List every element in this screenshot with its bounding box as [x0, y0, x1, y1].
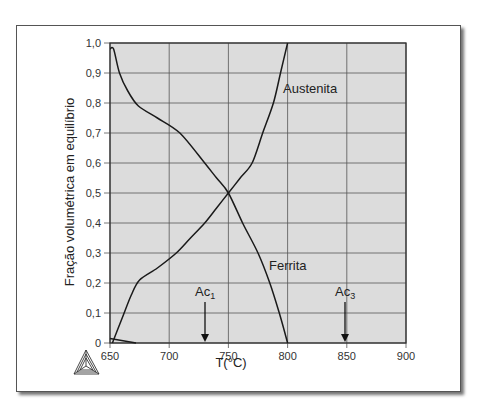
- x-axis-label: T(°C): [215, 355, 246, 370]
- x-tick-label: 700: [160, 350, 178, 362]
- y-axis-label: Fração volumétrica em equilíbrio: [62, 98, 77, 287]
- x-tick-label: 800: [278, 350, 296, 362]
- x-tick-label: 850: [338, 350, 356, 362]
- y-tick-label: 0,6: [86, 157, 101, 169]
- y-tick-label: 0,4: [86, 217, 101, 229]
- y-tick-label: 1,0: [86, 37, 101, 49]
- austenita-label: Austenita: [283, 81, 338, 96]
- y-tick-label: 0,7: [86, 127, 101, 139]
- y-tick-label: 0,8: [86, 97, 101, 109]
- y-tick-label: 0: [95, 337, 101, 349]
- chart: 65070075080085090000,10,20,30,40,50,60,7…: [0, 0, 480, 417]
- ferrita-label: Ferrita: [269, 258, 307, 273]
- x-tick-label: 900: [397, 350, 415, 362]
- x-tick-label: 650: [101, 350, 119, 362]
- thermo-calc-triangle-icon: [74, 350, 99, 374]
- y-tick-label: 0,1: [86, 307, 101, 319]
- y-tick-label: 0,5: [86, 187, 101, 199]
- y-tick-label: 0,2: [86, 277, 101, 289]
- y-tick-label: 0,9: [86, 67, 101, 79]
- y-tick-label: 0,3: [86, 247, 101, 259]
